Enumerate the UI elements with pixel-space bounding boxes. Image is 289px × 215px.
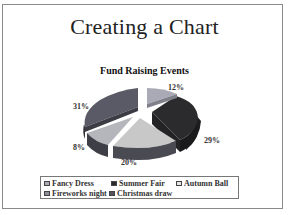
legend-label: Fancy Dress	[52, 179, 94, 188]
legend-label: Autumn Ball	[184, 179, 228, 188]
legend-item-fancy-dress: Fancy Dress	[44, 179, 94, 188]
label-christmas-draw: 31%	[73, 102, 89, 111]
legend-swatch	[176, 181, 182, 186]
legend-item-autumn-ball: Autumn Ball	[176, 179, 228, 188]
label-fireworks-night: 8%	[73, 143, 85, 152]
legend-label: Summer Fair	[119, 179, 165, 188]
legend-swatch	[111, 181, 117, 186]
legend-label: Christmas draw	[117, 189, 172, 198]
legend-swatch	[44, 191, 50, 196]
label-summer-fair: 29%	[204, 136, 220, 145]
legend-item-summer-fair: Summer Fair	[111, 179, 165, 188]
legend-item-fireworks-night: Fireworks night	[44, 189, 107, 198]
legend-swatch	[44, 181, 50, 186]
chart-legend: Fancy Dress Summer Fair Autumn Ball Fire…	[40, 176, 239, 199]
label-autumn-ball: 20%	[121, 158, 137, 167]
legend-label: Fireworks night	[52, 189, 107, 198]
legend-item-christmas-draw: Christmas draw	[109, 189, 172, 198]
legend-swatch	[109, 191, 115, 196]
label-fancy-dress: 12%	[168, 83, 184, 92]
